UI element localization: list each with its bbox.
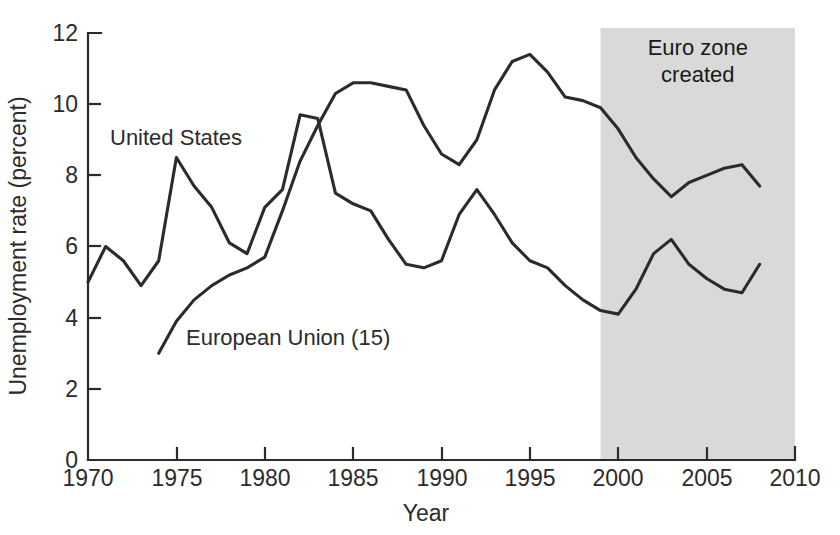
x-axis-title: Year: [403, 500, 450, 526]
x-axis-tick-labels: 1970 1975 1980 1985 1990 1995 2000 2005 …: [62, 465, 820, 491]
y-tick-label-2: 2: [65, 376, 78, 402]
x-tick-label-1980: 1980: [239, 465, 290, 491]
y-tick-label-8: 8: [65, 162, 78, 188]
x-tick-label-2000: 2000: [592, 465, 643, 491]
euro-zone-shaded-region: [601, 28, 795, 460]
chart-canvas: 12 10 8 6 4 2 0 1970 1975 1980 1985 1990…: [0, 0, 840, 535]
unemployment-rate-chart: 12 10 8 6 4 2 0 1970 1975 1980 1985 1990…: [0, 0, 840, 535]
euro-zone-annotation-line2: created: [661, 62, 734, 87]
y-axis-ticks: [88, 104, 101, 389]
y-tick-label-4: 4: [65, 305, 78, 331]
x-tick-label-1995: 1995: [504, 465, 555, 491]
y-axis-title: Unemployment rate (percent): [5, 96, 31, 395]
x-tick-label-2010: 2010: [769, 465, 820, 491]
y-axis-tick-labels: 12 10 8 6 4 2 0: [52, 20, 78, 473]
series-label-united-states: United States: [110, 125, 242, 150]
y-tick-label-10: 10: [52, 91, 78, 117]
x-tick-label-2005: 2005: [681, 465, 732, 491]
y-tick-label-12: 12: [52, 20, 78, 46]
y-tick-label-6: 6: [65, 233, 78, 259]
x-tick-label-1970: 1970: [62, 465, 113, 491]
series-label-european-union: European Union (15): [186, 325, 390, 350]
euro-zone-annotation-line1: Euro zone: [648, 35, 748, 60]
x-tick-label-1975: 1975: [151, 465, 202, 491]
x-tick-label-1985: 1985: [327, 465, 378, 491]
x-tick-label-1990: 1990: [416, 465, 467, 491]
